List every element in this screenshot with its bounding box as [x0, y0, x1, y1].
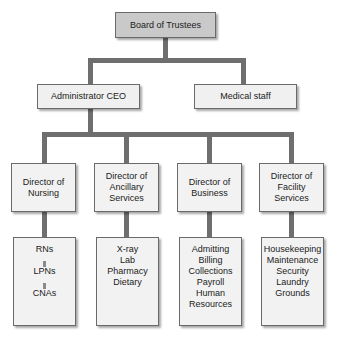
- connector-bus-to-director-ancillary: [124, 132, 129, 163]
- node-director-of-nursing[interactable]: Director of Nursing: [11, 163, 76, 212]
- chain-connector: [43, 283, 46, 289]
- leaf-item: Dietary: [113, 277, 142, 288]
- node-label-line2: Facility: [277, 182, 305, 193]
- leaf-item: LPNs: [33, 266, 55, 277]
- leaf-item: Grounds: [275, 288, 310, 299]
- connector-business-to-leaf: [207, 212, 212, 237]
- node-board-of-trustees[interactable]: Board of Trustees: [115, 12, 216, 38]
- node-director-of-business[interactable]: Director of Business: [177, 163, 242, 212]
- connector-bus-directors: [42, 132, 294, 137]
- node-label-line2: Nursing: [28, 188, 59, 199]
- connector-nursing-to-leaf: [42, 212, 47, 237]
- node-label-line3: Services: [109, 193, 144, 204]
- connector-bus-to-director-nursing: [42, 132, 47, 163]
- leaf-item: Human Resources: [180, 288, 241, 310]
- connector-bus-to-administrator: [88, 58, 93, 84]
- leaf-item: Laundry: [276, 277, 309, 288]
- node-label-line1: Director of: [106, 171, 148, 182]
- leaf-item: CNAs: [33, 288, 57, 299]
- leaf-box-ancillary[interactable]: X-ray Lab Pharmacy Dietary: [96, 237, 159, 326]
- leaf-box-business[interactable]: Admitting Billing Collections Payroll Hu…: [179, 237, 242, 326]
- node-label-line3: Services: [274, 193, 309, 204]
- connector-bus-to-medical-staff: [241, 58, 246, 84]
- connector-facility-to-leaf: [289, 212, 294, 237]
- leaf-item: Billing: [198, 255, 222, 266]
- chain-connector: [43, 261, 46, 267]
- node-label-line1: Director of: [271, 171, 313, 182]
- connector-bus-to-director-facility: [289, 132, 294, 163]
- node-medical-staff[interactable]: Medical staff: [194, 84, 297, 109]
- connector-board-down: [163, 38, 168, 60]
- node-label-line1: Director of: [23, 177, 65, 188]
- connector-bus-level2: [88, 58, 246, 63]
- leaf-item: Security: [276, 266, 309, 277]
- node-label-line1: Director of: [189, 177, 231, 188]
- leaf-item: Payroll: [197, 277, 225, 288]
- leaf-item: Lab: [120, 255, 135, 266]
- leaf-item: X-ray: [117, 244, 139, 255]
- node-label: Medical staff: [220, 91, 270, 102]
- node-administrator-ceo[interactable]: Administrator CEO: [37, 84, 140, 109]
- connector-ancillary-to-leaf: [124, 212, 129, 237]
- node-director-of-facility-services[interactable]: Director of Facility Services: [259, 163, 324, 212]
- leaf-item: Pharmacy: [107, 266, 148, 277]
- leaf-item: Housekeeping: [264, 244, 322, 255]
- leaf-box-facility[interactable]: Housekeeping Maintenance Security Laundr…: [261, 237, 324, 326]
- leaf-item: Collections: [188, 266, 232, 277]
- connector-bus-to-director-business: [207, 132, 212, 163]
- leaf-item: RNs: [36, 244, 54, 255]
- leaf-item: Admitting: [192, 244, 230, 255]
- leaf-box-nursing[interactable]: RNs LPNs CNAs: [13, 237, 76, 326]
- node-director-of-ancillary-services[interactable]: Director of Ancillary Services: [94, 163, 159, 212]
- leaf-item: Maintenance: [267, 255, 319, 266]
- org-chart: Board of Trustees Administrator CEO Medi…: [0, 0, 338, 346]
- node-label-line2: Ancillary: [109, 182, 143, 193]
- node-label: Board of Trustees: [130, 20, 201, 31]
- node-label: Administrator CEO: [51, 91, 126, 102]
- node-label-line2: Business: [191, 188, 228, 199]
